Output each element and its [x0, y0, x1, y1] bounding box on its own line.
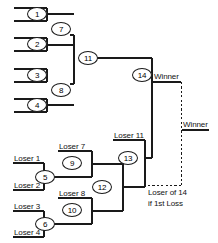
- node-match-7[interactable]: 7: [51, 22, 71, 36]
- tournament-bracket-diagram: 1 2 3 4 7 8 11 14 5 6 9 10 12 13 Loser 1…: [0, 0, 218, 243]
- node-seed-4[interactable]: 4: [27, 98, 47, 112]
- node-seed-3[interactable]: 3: [27, 68, 47, 82]
- node-match-11[interactable]: 11: [78, 51, 98, 65]
- label-bracket-reset-line2: if 1st Loss: [148, 199, 183, 209]
- label-winner-primary: Winner: [154, 72, 179, 81]
- label-loser-4: Loser 4: [14, 228, 40, 237]
- label-loser-2: Loser 2: [14, 181, 40, 190]
- node-match-13[interactable]: 13: [118, 151, 138, 165]
- node-seed-2[interactable]: 2: [27, 37, 47, 51]
- label-loser-7: Loser 7: [59, 142, 85, 151]
- node-match-12[interactable]: 12: [92, 180, 112, 194]
- label-loser-3: Loser 3: [14, 202, 40, 211]
- label-loser-1: Loser 1: [14, 154, 40, 163]
- label-winner-secondary: Winner: [183, 120, 208, 129]
- node-match-9[interactable]: 9: [62, 156, 82, 170]
- node-match-14[interactable]: 14: [132, 68, 152, 82]
- node-seed-1[interactable]: 1: [27, 7, 47, 21]
- node-match-8[interactable]: 8: [51, 83, 71, 97]
- label-loser-11: Loser 11: [114, 131, 144, 140]
- node-match-10[interactable]: 10: [62, 203, 82, 217]
- label-loser-8: Loser 8: [59, 189, 85, 198]
- label-bracket-reset-line1: Loser of 14: [148, 188, 187, 198]
